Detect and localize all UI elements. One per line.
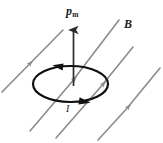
current-label: I <box>66 104 69 114</box>
field-line-1-tail-segment <box>30 30 63 64</box>
magnetic-field-label: B <box>124 18 132 30</box>
magnetic-moment-subscript: m <box>72 10 78 19</box>
diagram-canvas <box>0 0 163 143</box>
field-line-1-arrow-segment <box>2 62 32 93</box>
field-line-3 <box>56 47 133 138</box>
physics-diagram-current-loop: pm B I <box>0 0 163 143</box>
field-line-4-tail-segment <box>128 68 160 107</box>
magnetic-moment-label: pm <box>66 5 78 17</box>
field-line-3-arrow-segment <box>56 82 105 138</box>
magnetic-field-lines <box>2 20 160 140</box>
field-line-4-arrow-segment <box>98 105 130 140</box>
field-line-2 <box>30 20 119 131</box>
